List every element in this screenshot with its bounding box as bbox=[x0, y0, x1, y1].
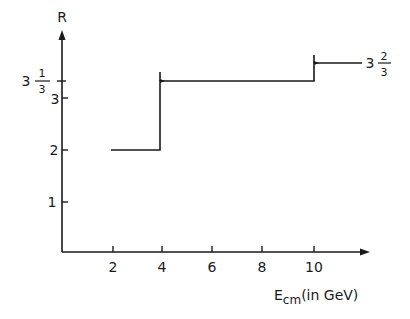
data-line-r bbox=[111, 63, 362, 150]
x-tick-label-4: 4 bbox=[158, 259, 167, 275]
x-axis-label: Ecm(in GeV) bbox=[274, 287, 358, 307]
svg-text:3: 3 bbox=[366, 55, 375, 71]
spike-mark-icon bbox=[314, 61, 319, 65]
svg-text:3: 3 bbox=[22, 73, 31, 89]
svg-text:Ecm(in GeV): Ecm(in GeV) bbox=[274, 287, 358, 307]
x-tick-label-6: 6 bbox=[208, 259, 217, 275]
x-tick-label-8: 8 bbox=[258, 259, 267, 275]
x-axis-arrow-icon bbox=[360, 249, 370, 256]
y-special-label: 3 1 3 bbox=[22, 67, 50, 96]
chart: 1 2 3 3 1 3 2 4 6 8 10 R Ecm(in GeV) 3 2… bbox=[0, 0, 410, 319]
y-axis-label: R bbox=[57, 9, 67, 25]
x-tick-label-10: 10 bbox=[305, 259, 323, 275]
annotation-3-2-3: 3 2 3 bbox=[366, 50, 391, 79]
spike-mark-icon bbox=[160, 79, 165, 83]
y-tick-label-3: 3 bbox=[51, 91, 60, 107]
y-axis-arrow-icon bbox=[59, 30, 66, 40]
axes bbox=[62, 38, 362, 252]
svg-text:3: 3 bbox=[39, 83, 46, 96]
x-ticks bbox=[113, 246, 314, 252]
svg-text:3: 3 bbox=[381, 66, 388, 79]
svg-text:2: 2 bbox=[381, 50, 388, 63]
y-tick-label-1: 1 bbox=[48, 194, 57, 210]
svg-text:1: 1 bbox=[39, 67, 46, 80]
y-tick-label-2: 2 bbox=[50, 142, 59, 158]
x-tick-label-2: 2 bbox=[109, 259, 118, 275]
